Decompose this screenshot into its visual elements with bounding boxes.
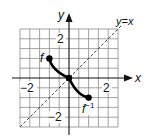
f-endpoint-dot bbox=[46, 55, 52, 61]
origin-dot bbox=[66, 75, 72, 81]
tick-label-x-2: 2 bbox=[103, 81, 110, 95]
f-inverse-superscript: −1 bbox=[85, 101, 95, 110]
tick-label-x-neg2: −2 bbox=[20, 81, 34, 95]
y-axis-arrow-icon bbox=[66, 13, 73, 22]
function-inverse-graph: y x y=x 2 −2 −2 2 f f−1 bbox=[0, 0, 149, 139]
f-inverse-endpoint-dot bbox=[85, 94, 91, 100]
y-axis-label: y bbox=[57, 8, 65, 22]
y-equals-x-label: y=x bbox=[115, 15, 134, 27]
x-axis-arrow-icon bbox=[124, 75, 133, 82]
tick-label-y-neg2: −2 bbox=[48, 110, 62, 124]
x-axis-label: x bbox=[134, 71, 142, 85]
tick-label-y-2: 2 bbox=[57, 32, 64, 46]
